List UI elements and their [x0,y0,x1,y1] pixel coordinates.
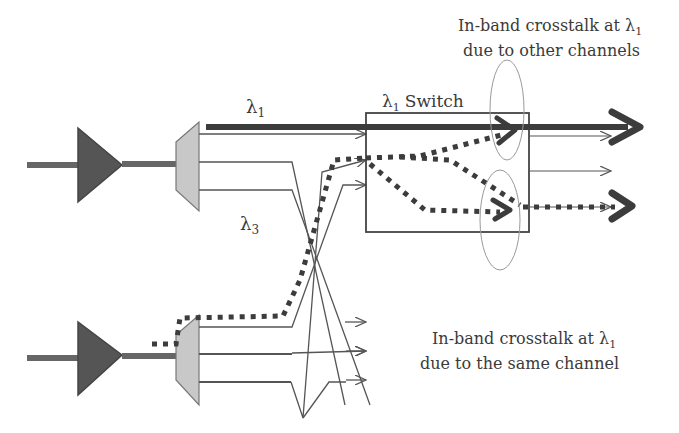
top-input-branch [27,122,199,211]
lambda3-label: λ3 [240,213,259,237]
demux-top-output-3 [199,190,370,405]
crosstalk-arrowhead-upper [497,118,515,143]
crosstalk-ellipse-bottom [480,170,520,270]
bottom-input-branch [27,315,199,405]
crosstalk-diagram: λ1 λ3 λ1Switch In-band crosstalk at λ1 d… [0,0,679,433]
crosstalk-ellipse-top [490,60,524,160]
annotation-same-channel-line2: due to the same channel [420,354,619,373]
annotation-same-channel-line1: In-band crosstalk at λ1 [432,329,616,351]
annotation-other-channels-line1: In-band crosstalk at λ1 [458,16,642,38]
switch-thin-outputs [529,136,611,207]
crossing-branch [303,382,346,418]
demux-bottom-output-1 [199,185,366,327]
amplifier-top-icon [78,128,122,202]
switch-label: λ1Switch [382,91,464,114]
amplifier-bottom-icon [78,322,122,395]
demux-bottom-icon [176,315,199,405]
lambda1-label: λ1 [246,96,265,120]
crosstalk-dotted-path [152,134,615,344]
crosstalk-arrowhead-lower [493,200,510,219]
bottom-demux-outputs [199,160,366,418]
demux-top-icon [176,122,199,211]
annotation-other-channels-line2: due to other channels [463,41,640,60]
